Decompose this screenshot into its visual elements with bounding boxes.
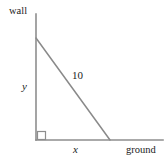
ladder-hypotenuse-line [36,38,110,140]
horizontal-side-label: x [73,144,78,155]
wall-label: wall [9,6,27,17]
hypotenuse-length-label: 10 [72,70,83,81]
geometry-figure: wall y 10 x ground [0,0,168,163]
right-angle-marker-icon [38,132,46,140]
ground-label: ground [126,145,156,156]
vertical-side-label: y [22,81,27,92]
